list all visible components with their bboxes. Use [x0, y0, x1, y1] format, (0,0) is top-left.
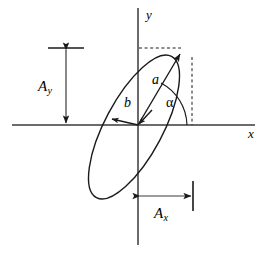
amplitude-x-subscript: x — [164, 212, 169, 223]
x-axis-label: x — [248, 127, 254, 140]
figure-canvas: y x a b α Ay Ax — [0, 0, 267, 258]
amplitude-x-label: Ax — [154, 206, 168, 223]
semi-minor-label: b — [124, 96, 131, 110]
amplitude-y-base: A — [38, 78, 47, 94]
amplitude-x-base: A — [154, 205, 163, 221]
y-axis-label: y — [146, 8, 152, 21]
tilted-ellipse — [71, 43, 197, 212]
semi-major-label: a — [152, 73, 159, 87]
diagram-svg — [0, 0, 267, 258]
semi-major-vector — [138, 54, 180, 125]
angle-arc-alpha — [161, 83, 187, 125]
semi-minor-vector — [112, 119, 138, 125]
angle-label-alpha: α — [166, 96, 173, 110]
amplitude-y-subscript: y — [48, 85, 53, 96]
amplitude-y-label: Ay — [38, 79, 52, 96]
